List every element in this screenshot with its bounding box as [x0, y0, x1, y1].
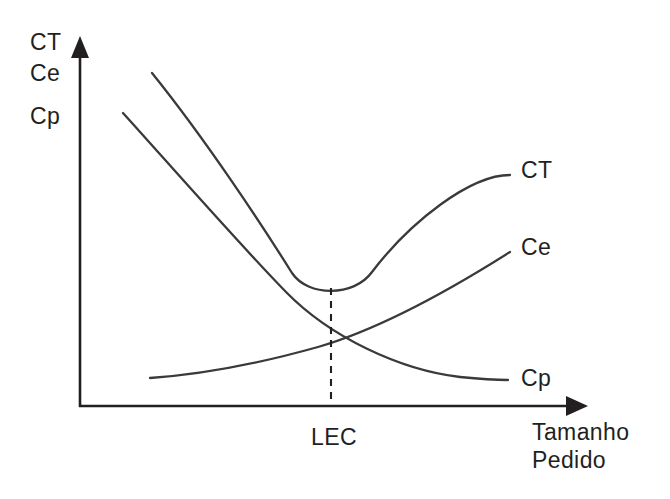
y-axis-label-ct: CT [30, 29, 61, 55]
eoq-chart-figure: CT Ce Cp CT Ce Cp LEC Tamanho Pedido [0, 0, 670, 499]
curve-labels-group: CT Ce Cp [521, 157, 552, 391]
y-axis-label-cp: Cp [30, 103, 60, 129]
y-axis-labels-group: CT Ce Cp [30, 29, 61, 129]
curve-label-cp: Cp [521, 365, 551, 391]
x-axis-title-line1: Tamanho [532, 419, 629, 445]
x-axis-title-line2: Pedido [532, 447, 606, 473]
y-axis-label-ce: Ce [30, 60, 60, 86]
x-axis-arrow-icon [566, 396, 588, 416]
curve-cp [123, 113, 508, 380]
curve-ct [152, 73, 510, 291]
chart-canvas: CT Ce Cp CT Ce Cp LEC Tamanho Pedido [0, 0, 670, 499]
curve-label-ce: Ce [521, 234, 551, 260]
axes-group [71, 36, 588, 416]
curve-label-ct: CT [521, 157, 552, 183]
curves-group [123, 73, 510, 380]
x-axis-labels-group: LEC Tamanho Pedido [311, 419, 629, 473]
x-axis-tick-label-lec: LEC [311, 424, 357, 450]
y-axis-arrow-icon [71, 36, 89, 58]
